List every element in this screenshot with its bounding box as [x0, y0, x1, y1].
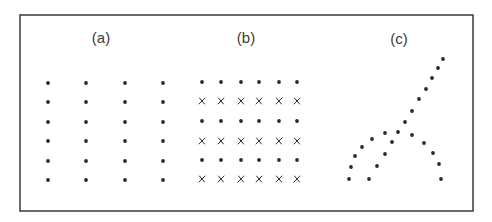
dot-marker: [84, 81, 88, 85]
dot-marker: [403, 120, 407, 124]
dot-marker: [277, 119, 281, 123]
dot-marker: [239, 80, 243, 84]
dot-marker: [295, 80, 299, 84]
dot-marker: [430, 76, 434, 80]
dot-marker: [441, 57, 445, 61]
x-marker: [238, 138, 244, 144]
dot-marker: [46, 178, 50, 182]
dot-marker: [84, 139, 88, 143]
dot-marker: [370, 137, 374, 141]
dot-marker: [295, 158, 299, 162]
dot-marker: [360, 145, 364, 149]
dot-marker: [123, 139, 127, 143]
x-marker: [238, 176, 244, 182]
dot-marker: [347, 177, 351, 181]
dot-marker: [295, 119, 299, 123]
dot-marker: [375, 164, 379, 168]
x-marker: [218, 176, 224, 182]
dot-marker: [396, 130, 400, 134]
dot-marker: [46, 139, 50, 143]
panel-b-grid: [199, 80, 300, 182]
dot-marker: [367, 177, 371, 181]
dot-marker: [46, 100, 50, 104]
dot-marker: [410, 109, 414, 113]
dot-marker: [200, 158, 204, 162]
x-marker: [294, 98, 300, 104]
panel-b-label: (b): [237, 30, 255, 45]
dot-marker: [439, 177, 443, 181]
x-marker: [294, 176, 300, 182]
x-marker: [199, 138, 205, 144]
dot-marker: [219, 119, 223, 123]
dot-marker: [383, 152, 387, 156]
panel-a-grid: [46, 81, 165, 182]
dot-marker: [161, 120, 165, 124]
dot-marker: [390, 140, 394, 144]
dot-marker: [123, 100, 127, 104]
dot-marker: [410, 133, 414, 137]
dot-marker: [123, 178, 127, 182]
dot-marker: [219, 80, 223, 84]
dot-marker: [219, 158, 223, 162]
dot-marker: [46, 120, 50, 124]
x-marker: [276, 176, 282, 182]
x-marker: [276, 138, 282, 144]
dot-marker: [84, 120, 88, 124]
dot-marker: [84, 159, 88, 163]
dot-marker: [84, 178, 88, 182]
x-marker: [294, 138, 300, 144]
x-marker: [218, 98, 224, 104]
dot-marker: [353, 154, 357, 158]
dot-marker: [383, 131, 387, 135]
x-marker: [276, 98, 282, 104]
dot-marker: [277, 158, 281, 162]
dot-marker: [437, 162, 441, 166]
panel-c-label: (c): [390, 31, 408, 46]
dot-marker: [200, 80, 204, 84]
dot-marker: [239, 158, 243, 162]
dot-marker: [257, 119, 261, 123]
dot-marker: [161, 159, 165, 163]
dot-marker: [161, 81, 165, 85]
dot-marker: [123, 159, 127, 163]
x-marker: [199, 176, 205, 182]
dot-marker: [424, 87, 428, 91]
dot-marker: [161, 139, 165, 143]
panel-a-label: (a): [92, 30, 110, 45]
dot-marker: [422, 141, 426, 145]
dot-marker: [200, 119, 204, 123]
dot-marker: [239, 119, 243, 123]
x-marker: [256, 98, 262, 104]
dot-marker: [431, 151, 435, 155]
dot-marker: [349, 165, 353, 169]
panel-c-points: [347, 57, 445, 181]
x-marker: [256, 138, 262, 144]
x-marker: [199, 98, 205, 104]
x-marker: [218, 138, 224, 144]
dot-marker: [161, 100, 165, 104]
dot-marker: [123, 81, 127, 85]
dot-marker: [257, 80, 261, 84]
x-marker: [238, 98, 244, 104]
figure: (a) (b) (c): [0, 0, 492, 222]
dot-marker: [123, 120, 127, 124]
dot-marker: [277, 80, 281, 84]
dot-marker: [161, 178, 165, 182]
dot-marker: [46, 81, 50, 85]
x-marker: [256, 176, 262, 182]
dot-marker: [417, 97, 421, 101]
dot-marker: [84, 100, 88, 104]
dot-marker: [257, 158, 261, 162]
dot-marker: [436, 66, 440, 70]
dot-marker: [46, 159, 50, 163]
